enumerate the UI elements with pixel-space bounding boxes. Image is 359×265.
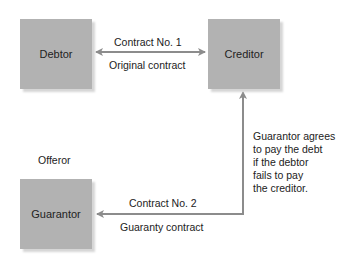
note-line: fails to pay	[253, 169, 335, 182]
guarantor-agreement-note: Guarantor agrees to pay the debt if the …	[253, 130, 335, 195]
guarantor-box: Guarantor	[20, 179, 92, 249]
creditor-box: Creditor	[208, 19, 280, 89]
contract1-bottom-label: Original contract	[109, 59, 185, 71]
note-line: to pay the debt	[253, 143, 335, 156]
note-line: the creditor.	[253, 182, 335, 195]
note-line: Guarantor agrees	[253, 130, 335, 143]
debtor-label: Debtor	[39, 48, 72, 60]
creditor-label: Creditor	[224, 48, 263, 60]
contract2-top-label: Contract No. 2	[129, 197, 197, 209]
guarantor-role-label: Offeror	[38, 154, 70, 166]
contract2-bottom-label: Guaranty contract	[120, 221, 203, 233]
debtor-box: Debtor	[20, 19, 92, 89]
note-line: if the debtor	[253, 156, 335, 169]
guarantor-label: Guarantor	[31, 208, 81, 220]
contract1-top-label: Contract No. 1	[114, 36, 182, 48]
